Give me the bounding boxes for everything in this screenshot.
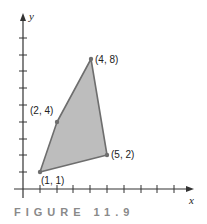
label-2-4: (2, 4): [30, 105, 53, 116]
label-4-8: (4, 8): [95, 54, 118, 65]
vertex-5-2: [105, 153, 109, 157]
chart: y x (1, 1) (2, 4) (4, 8) (5, 2): [0, 0, 207, 224]
y-axis-arrow-icon: [20, 13, 26, 21]
label-1-1: (1, 1): [41, 175, 64, 186]
vertex-2-4: [55, 120, 59, 124]
y-axis: [19, 13, 27, 198]
x-axis: [14, 185, 194, 193]
vertex-4-8: [89, 57, 93, 61]
vertex-1-1: [38, 170, 42, 174]
x-axis-arrow-icon: [186, 186, 194, 192]
y-axis-label: y: [28, 10, 34, 22]
x-axis-label: x: [188, 194, 194, 206]
figure-caption: FIGURE 11.9: [14, 206, 134, 218]
label-5-2: (5, 2): [111, 149, 134, 160]
